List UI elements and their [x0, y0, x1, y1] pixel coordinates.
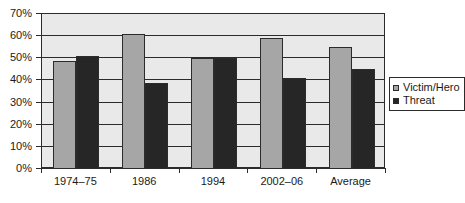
y-axis-label: 0% — [0, 163, 32, 174]
bar — [53, 61, 76, 170]
gridline — [42, 35, 384, 36]
y-axis-label: 30% — [0, 97, 32, 108]
legend-item[interactable]: Threat — [393, 94, 460, 107]
bar — [260, 38, 283, 169]
x-axis-tick — [247, 169, 248, 173]
legend-item[interactable]: Victim/Hero — [393, 81, 460, 94]
plot-area — [41, 13, 385, 168]
legend-item-label: Victim/Hero — [403, 82, 460, 93]
y-axis-label: 60% — [0, 30, 32, 41]
y-axis-tick — [36, 13, 41, 14]
legend-swatch-icon — [393, 98, 399, 104]
x-axis-label: 1994 — [179, 176, 248, 187]
bar — [191, 58, 214, 169]
legend-item-label: Threat — [403, 95, 435, 106]
x-axis-tick — [41, 169, 42, 173]
bar — [283, 78, 306, 169]
bar — [329, 47, 352, 169]
x-axis-tick — [316, 169, 317, 173]
x-axis-label: 1986 — [110, 176, 179, 187]
y-axis-label: 10% — [0, 141, 32, 152]
x-axis-tick — [385, 169, 386, 173]
bar — [352, 69, 375, 169]
y-axis-tick — [36, 57, 41, 58]
bar — [214, 58, 237, 169]
bar — [76, 56, 99, 169]
y-axis-line — [41, 13, 42, 169]
chart-legend: Victim/HeroThreat — [389, 77, 465, 111]
y-axis-tick — [36, 102, 41, 103]
y-axis-tick — [36, 124, 41, 125]
bar — [122, 34, 145, 169]
legend-swatch-icon — [393, 85, 399, 91]
x-axis-line — [41, 168, 386, 169]
x-axis-label: 2002–06 — [247, 176, 316, 187]
x-axis-label: Average — [316, 176, 385, 187]
y-axis-tick — [36, 146, 41, 147]
y-axis-tick — [36, 35, 41, 36]
x-axis-tick — [110, 169, 111, 173]
y-axis-label: 70% — [0, 8, 32, 19]
y-axis-label: 50% — [0, 52, 32, 63]
y-axis-label: 40% — [0, 74, 32, 85]
y-axis-tick — [36, 79, 41, 80]
bar — [145, 83, 168, 169]
x-axis-tick — [179, 169, 180, 173]
x-axis-label: 1974–75 — [41, 176, 110, 187]
y-axis-label: 20% — [0, 119, 32, 130]
